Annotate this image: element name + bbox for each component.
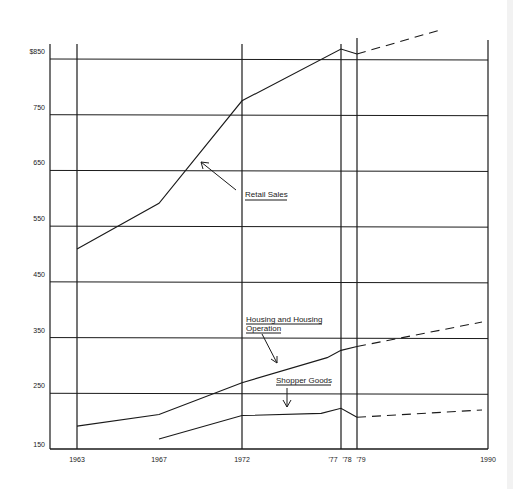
housing-annotation: Housing and Housing Operation — [246, 315, 323, 363]
y-tick-label: 350 — [33, 327, 45, 334]
series-line-actual — [77, 49, 357, 249]
h-gridline — [50, 338, 488, 339]
x-axis-ticks: 196319671972'77'78'791990 — [69, 456, 496, 463]
housing-label-line2: Operation — [246, 324, 281, 333]
x-tick-label: 1972 — [234, 456, 250, 463]
y-tick-label: 650 — [33, 159, 45, 166]
x-tick-label: 1963 — [69, 456, 85, 463]
h-gridline — [50, 393, 488, 394]
page-edge — [507, 0, 513, 489]
x-tick-label: '78 — [342, 456, 351, 463]
y-tick-label: $850 — [29, 48, 45, 55]
y-tick-label: 150 — [33, 441, 45, 448]
line-chart: $850750650550450350250150 196319671972'7… — [0, 0, 513, 489]
h-gridline — [50, 170, 488, 171]
x-tick-label: '79 — [356, 456, 365, 463]
retail-sales-arrow — [201, 162, 236, 190]
shopper-goods-label: Shopper Goods — [276, 376, 332, 385]
shopper-goods-annotation: Shopper Goods — [276, 376, 332, 407]
h-gridline — [50, 282, 488, 283]
h-gridline — [50, 59, 488, 60]
retail-sales-label: Retail Sales — [245, 190, 288, 199]
x-tick-label: 1967 — [151, 456, 167, 463]
grid-lines — [50, 38, 488, 449]
retail-sales-annotation: Retail Sales — [201, 162, 288, 200]
y-tick-label: 750 — [33, 104, 45, 111]
x-tick-label: '77 — [328, 456, 337, 463]
series-line-actual — [159, 408, 357, 439]
x-tick-label: 1990 — [480, 456, 496, 463]
y-tick-label: 250 — [33, 382, 45, 389]
y-tick-label: 450 — [33, 271, 45, 278]
y-axis-ticks: $850750650550450350250150 — [29, 48, 45, 448]
series-line-actual — [77, 346, 357, 426]
series-line-projected — [357, 322, 482, 346]
h-gridline — [50, 115, 488, 116]
series-line-projected — [357, 30, 440, 54]
housing-label-line1: Housing and Housing — [246, 315, 323, 324]
y-tick-label: 550 — [33, 215, 45, 222]
series-line-projected — [357, 410, 482, 417]
